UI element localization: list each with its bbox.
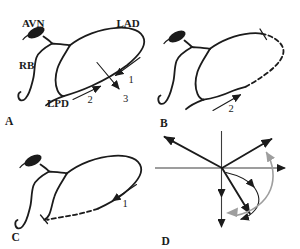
avn-node xyxy=(167,28,188,45)
posterior-division-path xyxy=(196,49,210,100)
left-bundle-path xyxy=(52,44,70,46)
panel-c: 1 C xyxy=(12,152,142,243)
vector-up-right xyxy=(222,139,272,168)
panel-a-letter: A xyxy=(5,115,14,127)
loop-bottom-path xyxy=(204,87,246,100)
panel-b: 2 B xyxy=(158,28,283,129)
lpd-tail-path xyxy=(186,100,204,110)
arrow-1-number: 1 xyxy=(129,74,134,85)
anterior-division-proximal-path xyxy=(210,33,262,49)
panel-b-letter: B xyxy=(160,117,168,129)
left-bundle-path xyxy=(49,172,67,174)
avn-tail xyxy=(164,40,169,44)
right-bundle-path xyxy=(18,44,52,101)
posterior-division-path xyxy=(44,173,67,220)
panel-a: AVN LAD RB LPD 1 2 3 A xyxy=(5,17,144,128)
arrow-1-number: 1 xyxy=(123,198,128,209)
avn-node xyxy=(23,152,44,169)
his-bundle-stem xyxy=(185,41,193,48)
his-bundle-stem xyxy=(41,165,50,172)
left-bundle-path xyxy=(192,47,210,49)
blocked-posterior-division-dashed-path xyxy=(47,209,98,220)
arrow-2-number: 2 xyxy=(88,94,93,105)
his-bundle-stem xyxy=(44,37,53,44)
posterior-division-path xyxy=(56,45,70,96)
gray-left-arrowhead-icon xyxy=(226,208,238,218)
right-bundle-path xyxy=(158,47,192,104)
panel-d: D xyxy=(155,131,285,247)
anterior-division-loop-path xyxy=(46,28,144,106)
panel-d-letter: D xyxy=(162,235,170,247)
figure-canvas: AVN LAD RB LPD 1 2 3 A 2 B 1 xyxy=(0,0,300,249)
hemiblock-figure: AVN LAD RB LPD 1 2 3 A 2 B 1 xyxy=(0,0,300,249)
avn-tail xyxy=(20,164,25,168)
lad-label: LAD xyxy=(117,17,140,29)
vector-up-left xyxy=(165,137,223,168)
avn-tail xyxy=(23,36,28,40)
rb-label: RB xyxy=(19,59,35,71)
rotation-arc-gray xyxy=(236,153,273,216)
lpd-label: LPD xyxy=(47,97,69,109)
anterior-division-loop-path xyxy=(67,156,141,209)
arrow-2-number: 2 xyxy=(229,103,234,114)
panel-c-letter: C xyxy=(12,231,20,243)
blocked-anterior-division-dashed-path xyxy=(246,34,284,87)
arrow-3-number: 3 xyxy=(123,93,128,104)
avn-label: AVN xyxy=(22,17,44,29)
